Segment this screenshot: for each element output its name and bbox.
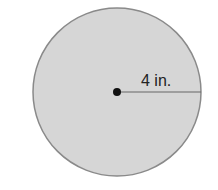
center-point xyxy=(113,88,121,96)
circle-diagram: 4 in. xyxy=(0,0,218,190)
radius-label: 4 in. xyxy=(141,72,171,89)
